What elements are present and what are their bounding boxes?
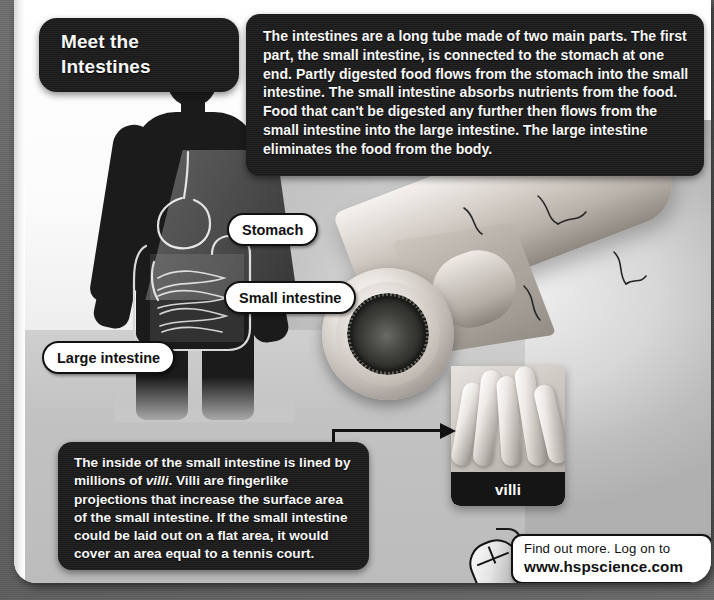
find-out-more-label: Find out more. Log on to	[524, 541, 670, 556]
villi-text-box: The inside of the small intestine is lin…	[58, 442, 369, 570]
villi-text: The inside of the small intestine is lin…	[74, 454, 357, 564]
page-title-box: Meet theIntestines	[39, 18, 239, 92]
website-url[interactable]: www.hspscience.com	[524, 558, 683, 575]
villi-closeup-panel: villi	[451, 366, 565, 506]
find-out-more-bar[interactable]: Find out more. Log on to www.hspscience.…	[511, 534, 711, 583]
callout-large-intestine: Large intestine	[42, 341, 175, 374]
page-title: Meet theIntestines	[61, 30, 151, 79]
villi-panel-label: villi	[451, 472, 565, 506]
textbook-page: villi Meet theIntestines The intestines …	[14, 0, 711, 583]
callout-small-intestine: Small intestine	[224, 281, 356, 314]
callout-stomach: Stomach	[227, 213, 318, 246]
intro-text: The intestines are a long tube made of t…	[263, 27, 691, 159]
page-backdrop: villi Meet theIntestines The intestines …	[0, 0, 714, 600]
intro-text-box: The intestines are a long tube made of t…	[246, 14, 704, 176]
